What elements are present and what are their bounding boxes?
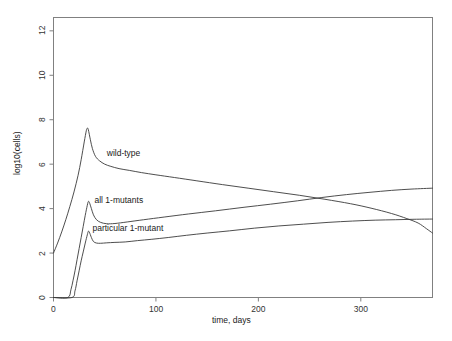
y-tick-label: 12 [38,26,47,35]
curve-label-all-1-mutants: all 1-mutants [94,196,143,205]
x-tick-label: 0 [51,305,56,314]
y-axis-title: log10(cells) [13,132,22,175]
curve-label-wild-type: wild-type [107,149,141,158]
y-tick-label: 4 [38,206,47,211]
curve-label-particular-1-mutant: particular 1-mutant [92,224,163,233]
axis-ticks [50,31,361,302]
y-tick-label: 0 [38,295,47,300]
y-tick-label: 2 [38,251,47,256]
y-tick-label: 6 [38,162,47,167]
x-tick-label: 100 [149,305,163,314]
chart-figure: log10(cells) time, days 0100200300 02468… [0,0,452,341]
x-tick-label: 200 [251,305,265,314]
series-line-wild-type [54,128,433,253]
y-tick-label: 8 [38,117,47,122]
plot-canvas [0,0,452,341]
x-tick-label: 300 [354,305,368,314]
y-tick-label: 10 [38,70,47,79]
x-axis-title: time, days [212,316,251,325]
